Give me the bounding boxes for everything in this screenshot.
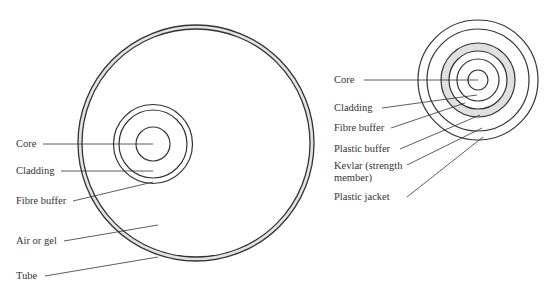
- leader-tube: [45, 257, 158, 276]
- fibre-cable-diagrams: [0, 0, 551, 293]
- label-core-left: Core: [16, 138, 36, 150]
- leader-fibre-buffer: [391, 103, 465, 128]
- leader-plastic-buffer: [400, 115, 480, 149]
- tube-inner-ring: [82, 29, 310, 257]
- label-kevlar-cont: member): [334, 172, 372, 184]
- label-fibre-buffer-left: Fibre buffer: [16, 195, 66, 207]
- label-plastic-buffer: Plastic buffer: [334, 143, 390, 155]
- label-cladding-left: Cladding: [16, 165, 55, 177]
- loose-tube-cable: [43, 25, 314, 276]
- label-plastic-jacket: Plastic jacket: [334, 191, 390, 203]
- label-cladding-right: Cladding: [334, 102, 373, 114]
- label-core-right: Core: [334, 74, 354, 86]
- label-air-or-gel: Air or gel: [16, 235, 57, 247]
- label-fibre-buffer-right: Fibre buffer: [334, 122, 384, 134]
- label-tube: Tube: [16, 270, 37, 282]
- label-kevlar: Kevlar (strength: [334, 160, 403, 172]
